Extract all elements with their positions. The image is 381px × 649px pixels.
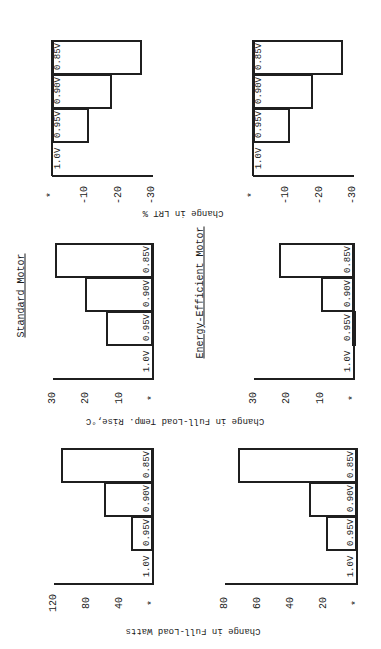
category-label: 1.0V (143, 550, 152, 584)
tick-label: 10 (115, 386, 125, 410)
axis-title-lrt: Change in LRT % (128, 208, 238, 218)
tick-label: * (148, 386, 158, 410)
category-label: 0.90V (143, 482, 152, 516)
axis-title-watts: Change in Full-Load Watts (108, 626, 278, 636)
category-label: 1.0V (347, 550, 356, 584)
value-axis (54, 583, 154, 585)
value-axis (253, 175, 354, 177)
tick-label: -20 (114, 183, 124, 207)
tick-label: -30 (147, 183, 157, 207)
tick-label: * (352, 591, 362, 615)
value-axis (52, 175, 153, 177)
tick-label: 20 (319, 591, 329, 615)
value-axis (225, 583, 358, 585)
category-label: 1.0V (344, 345, 353, 379)
tick-label: 30 (249, 386, 259, 410)
category-label: 1.0V (255, 142, 264, 176)
tick-label: -30 (348, 183, 358, 207)
category-label: 0.95V (54, 108, 63, 142)
category-label: 0.85V (143, 448, 152, 482)
tick-label: 80 (82, 591, 92, 615)
tick-label: -10 (80, 183, 90, 207)
tick-label: -20 (315, 183, 325, 207)
tick-label: 60 (253, 591, 263, 615)
category-label: 0.85V (344, 243, 353, 277)
category-label: 0.85V (54, 40, 63, 74)
value-axis (254, 378, 355, 380)
tick-label: -10 (281, 183, 291, 207)
tick-label: 10 (316, 386, 326, 410)
tick-label: 40 (286, 591, 296, 615)
category-label: 0.95V (143, 311, 152, 345)
tick-label: * (148, 591, 158, 615)
tick-label: 120 (49, 591, 59, 615)
bar (253, 40, 343, 75)
energy-efficient-motor-title: Energy-Efficient Motor (195, 229, 206, 359)
category-label: 1.0V (143, 345, 152, 379)
category-label: 0.90V (344, 277, 353, 311)
tick-label: 80 (220, 591, 230, 615)
category-label: 0.90V (54, 74, 63, 108)
category-label: 0.90V (143, 277, 152, 311)
bar (352, 311, 356, 346)
category-label: 0.95V (347, 516, 356, 550)
category-label: 0.90V (255, 74, 264, 108)
tick-label: * (248, 183, 258, 207)
category-label: 1.0V (54, 142, 63, 176)
axis-title-temp: Change in Full-Load Temp. Rise,°C (60, 416, 290, 426)
category-label: 0.95V (344, 311, 353, 345)
category-label: 0.85V (347, 448, 356, 482)
bar (55, 243, 153, 278)
value-axis (53, 378, 154, 380)
standard-motor-title: Standard Motor (16, 251, 27, 341)
tick-label: 30 (48, 386, 58, 410)
category-label: 0.95V (255, 108, 264, 142)
bar (61, 448, 153, 483)
tick-label: 40 (115, 591, 125, 615)
tick-label: * (47, 183, 57, 207)
category-label: 0.85V (143, 243, 152, 277)
tick-label: 20 (282, 386, 292, 410)
category-label: 0.95V (143, 516, 152, 550)
tick-label: * (349, 386, 359, 410)
category-label: 0.90V (347, 482, 356, 516)
bar (238, 448, 357, 483)
bar (52, 40, 142, 75)
tick-label: 20 (81, 386, 91, 410)
category-label: 0.85V (255, 40, 264, 74)
